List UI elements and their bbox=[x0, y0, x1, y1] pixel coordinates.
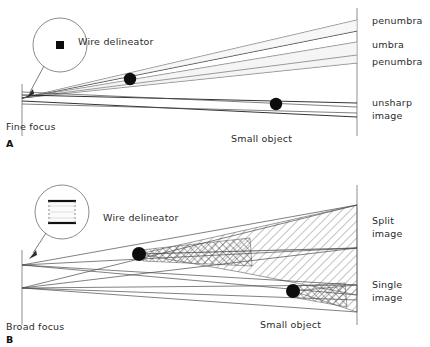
panel-a-label-penumbra-bottom: penumbra bbox=[372, 56, 423, 67]
panel-b-wire-label: Wire delineator bbox=[103, 212, 179, 223]
figure-root: Wire delineator Small object Fine focus … bbox=[0, 0, 430, 347]
panel-b-focus-label: Broad focus bbox=[6, 321, 64, 332]
diagram-canvas: Wire delineator Small object Fine focus … bbox=[0, 0, 430, 347]
broad-focus-spot-icon bbox=[48, 200, 76, 224]
panel-b: Wire delineator Small object Broad focus… bbox=[6, 185, 403, 345]
panel-a-label-umbra: umbra bbox=[372, 39, 404, 50]
broad-focus-leader-line bbox=[33, 233, 46, 253]
panel-b-object-overlap-crosshatch bbox=[295, 283, 347, 307]
panel-b-small-object-marker bbox=[286, 284, 300, 298]
panel-b-object-label: Small object bbox=[260, 319, 321, 330]
panel-a: Wire delineator Small object Fine focus … bbox=[6, 8, 423, 149]
panel-a-ray-object-upper2 bbox=[22, 92, 357, 107]
panel-a-label-unsharp: unsharp bbox=[372, 97, 412, 108]
panel-b-label-split: Split bbox=[372, 215, 394, 226]
panel-a-ray-object-lower2 bbox=[22, 104, 357, 113]
panel-a-label-image: image bbox=[372, 110, 403, 121]
panel-a-object-label: Small object bbox=[231, 133, 292, 144]
panel-a-letter: A bbox=[6, 138, 14, 149]
panel-a-label-penumbra-top: penumbra bbox=[372, 15, 423, 26]
fine-focus-spot-icon bbox=[56, 41, 64, 49]
panel-a-ray-object-upper bbox=[22, 95, 357, 103]
panel-a-small-object-marker bbox=[270, 98, 282, 110]
fine-focus-leader-line bbox=[30, 66, 44, 92]
panel-b-label-single-image: image bbox=[372, 292, 403, 303]
broad-focus-arrow-icon bbox=[29, 250, 37, 259]
panel-a-wire-label: Wire delineator bbox=[78, 36, 154, 47]
panel-b-letter: B bbox=[6, 334, 13, 345]
panel-b-label-split-image: image bbox=[372, 228, 403, 239]
panel-a-focus-label: Fine focus bbox=[6, 121, 56, 132]
panel-a-ray-object-lower bbox=[22, 101, 357, 117]
panel-b-wire-delineator-marker bbox=[132, 247, 146, 261]
panel-a-wire-delineator-marker bbox=[124, 73, 136, 85]
panel-b-label-single: Single bbox=[372, 279, 402, 290]
